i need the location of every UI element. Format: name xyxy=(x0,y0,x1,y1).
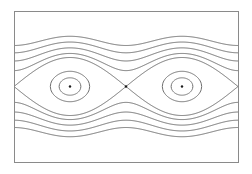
separatrix xyxy=(14,58,238,87)
open-orbit xyxy=(14,36,238,45)
open-orbit xyxy=(14,48,238,61)
open-orbit xyxy=(14,128,238,137)
center-point xyxy=(69,85,71,87)
phase-portrait-diagram xyxy=(0,0,252,174)
open-orbit xyxy=(14,42,238,53)
separatrix xyxy=(14,87,238,116)
open-orbit xyxy=(14,53,238,70)
center-point xyxy=(181,85,183,87)
open-orbit xyxy=(14,120,238,131)
open-orbit xyxy=(14,112,238,125)
saddle-point xyxy=(125,85,127,87)
open-orbit xyxy=(14,102,238,119)
fixed-points xyxy=(69,85,183,87)
